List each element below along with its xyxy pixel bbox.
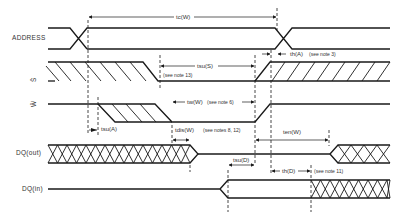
tdis-w-annotation: tdis(W) (see notes 8, 12) <box>173 127 241 140</box>
reference-lines <box>88 8 329 212</box>
tsu-d-annotation: tsu(D) <box>229 157 254 165</box>
tc-w-label: tc(W) <box>176 14 190 20</box>
tsu-a-annotation: tsu(A) <box>89 126 117 132</box>
dq-out-waveform <box>48 145 390 163</box>
signal-label-s-bar: S̄ <box>30 77 37 82</box>
signal-label-address: ADDRESS <box>12 34 46 41</box>
tsu-s-annotation: tsu(S) (see note 13) <box>161 63 254 78</box>
tdis-w-label: tdis(W) <box>175 127 194 133</box>
th-d-note: (see note 11) <box>314 168 343 174</box>
w-bar-waveform <box>48 104 390 122</box>
tw-w-note: (see note 6) <box>207 99 234 105</box>
dq-in-waveform <box>48 180 390 198</box>
tw-w-label: tw(W) <box>187 99 203 105</box>
ten-w-annotation: ten(W) <box>256 129 328 140</box>
address-waveform <box>48 28 390 49</box>
s-bar-waveform <box>46 62 390 81</box>
ten-w-label: ten(W) <box>283 129 301 135</box>
tdis-w-note: (see notes 8, 12) <box>203 127 241 133</box>
signal-label-dq-out: DQ(out) <box>16 149 41 157</box>
signal-label-dq-in: DQ(in) <box>22 185 43 193</box>
tsu-s-note: (see note 13) <box>163 72 193 78</box>
signal-label-w-bar: W̄ <box>30 100 37 107</box>
tsu-d-label: tsu(D) <box>233 157 249 163</box>
th-d-label: th(D) <box>282 168 295 174</box>
tsu-a-label: tsu(A) <box>101 126 117 132</box>
th-d-annotation: th(D) (see note 11) <box>272 168 343 174</box>
tc-w-annotation: tc(W) <box>89 14 276 20</box>
write-cycle-timing-diagram: ADDRESS S̄ W̄ DQ(out) DQ(in) <box>0 0 402 215</box>
th-a-label: th(A) <box>290 51 303 57</box>
th-a-annotation: th(A) (see note 3) <box>262 51 336 57</box>
tsu-s-label: tsu(S) <box>197 63 213 69</box>
th-a-note: (see note 3) <box>309 51 336 57</box>
tw-w-annotation: tw(W) (see note 6) <box>173 99 254 105</box>
